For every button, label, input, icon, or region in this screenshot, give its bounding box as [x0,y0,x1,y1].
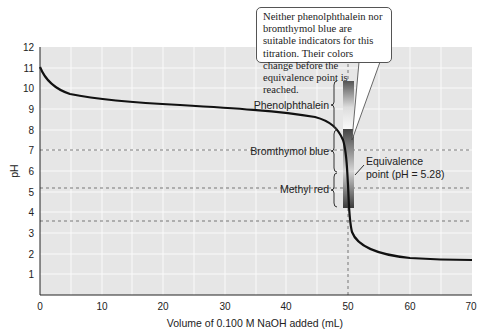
y-tick: 12 [23,42,35,53]
titration-chart: 1 2 3 4 5 6 7 8 9 10 11 12 0 10 20 30 40… [0,0,481,333]
y-tick: 6 [28,166,34,177]
y-tick: 8 [28,125,34,136]
y-tick: 7 [28,145,34,156]
equivalence-label-line1: Equivalence [366,155,423,167]
y-axis-label: pH [8,164,20,177]
x-tick: 30 [219,301,231,312]
x-tick: 0 [37,301,43,312]
callout-note: Neither phenolphthalein nor bromthymol b… [256,7,392,63]
y-tick: 10 [23,83,35,94]
y-tick: 1 [28,269,34,280]
x-tick: 40 [280,301,292,312]
x-tick: 10 [96,301,108,312]
x-tick: 70 [465,301,477,312]
x-tick: 20 [157,301,169,312]
y-tick: 3 [28,228,34,239]
y-tick: 2 [28,249,34,260]
x-axis-label: Volume of 0.100 M NaOH added (mL) [167,317,343,329]
y-tick: 11 [24,63,35,74]
equivalence-label-line2: point (pH = 5.28) [366,168,445,180]
x-tick: 60 [404,301,416,312]
y-tick: 4 [28,207,34,218]
methyl-red-label: Methyl red [280,183,329,195]
phenolphthalein-label: Phenolphthalein [254,99,329,111]
x-tick: 50 [342,301,354,312]
bromthymol-label: Bromthymol blue [250,145,329,157]
y-tick: 5 [28,187,34,198]
phenolphthalein-bar [343,81,354,129]
y-tick: 9 [28,104,34,115]
